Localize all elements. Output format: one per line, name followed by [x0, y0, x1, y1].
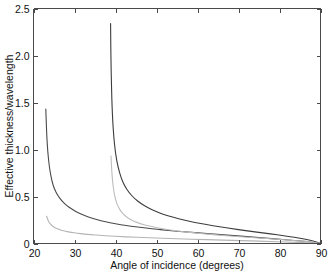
- x-tick-label-80: 80: [275, 247, 287, 259]
- x-axis-title: Angle of incidence (degrees): [110, 259, 244, 271]
- line-chart: 2030405060708090 00.51.01.52.02.5 Angle …: [0, 0, 332, 276]
- x-tick-label-60: 60: [193, 247, 205, 259]
- x-tick-label-20: 20: [29, 247, 41, 259]
- y-tick-label-1.5: 1.5: [15, 97, 30, 109]
- y-tick-label-2.0: 2.0: [15, 50, 30, 62]
- y-tick-label-0: 0: [24, 238, 30, 250]
- x-tick-label-30: 30: [70, 247, 82, 259]
- y-axis-title: Effective thickness/wavelength: [3, 54, 15, 197]
- y-tick-label-0.5: 0.5: [15, 191, 30, 203]
- y-tick-label-1.0: 1.0: [15, 144, 30, 156]
- x-tick-label-40: 40: [111, 247, 123, 259]
- x-tick-label-70: 70: [234, 247, 246, 259]
- chart-figure: 2030405060708090 00.51.01.52.02.5 Angle …: [0, 0, 332, 276]
- x-axis-tick-labels: 2030405060708090: [29, 247, 328, 259]
- x-tick-label-90: 90: [316, 247, 328, 259]
- x-tick-label-50: 50: [152, 247, 164, 259]
- y-axis-tick-labels: 00.51.01.52.02.5: [15, 3, 30, 250]
- plot-area-background: [33, 8, 321, 243]
- y-tick-label-2.5: 2.5: [15, 3, 30, 15]
